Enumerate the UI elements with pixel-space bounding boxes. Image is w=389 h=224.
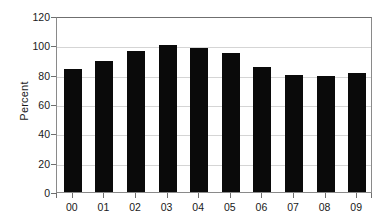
x-axis-tick-label: 01 — [90, 201, 116, 213]
x-axis-tick-label: 03 — [154, 201, 180, 213]
x-axis-tick-mark — [103, 193, 104, 198]
y-axis-tick-label: 100 — [26, 41, 50, 51]
y-axis-tick-label: 120 — [26, 12, 50, 22]
y-axis-tick-label: 40 — [26, 129, 50, 139]
y-axis-tick-label: 60 — [26, 100, 50, 110]
x-axis-tick-label: 00 — [59, 201, 85, 213]
bar — [64, 69, 82, 192]
bar — [127, 51, 145, 192]
x-axis-tick-mark — [261, 193, 262, 198]
x-axis-tick-mark — [356, 193, 357, 198]
x-axis-tick-label: 05 — [217, 201, 243, 213]
bar-series — [57, 18, 371, 192]
x-axis-tick-label: 07 — [280, 201, 306, 213]
x-axis-tick-label: 04 — [185, 201, 211, 213]
x-axis-tick-mark — [230, 193, 231, 198]
x-axis-boundary-tick-mark — [56, 193, 57, 198]
chart-page: Percent 020406080100120 0001020304050607… — [0, 0, 389, 224]
x-axis-tick-mark — [72, 193, 73, 198]
bar — [348, 73, 366, 192]
x-axis: 00010203040506070809 — [56, 193, 372, 224]
x-axis-tick-label: 06 — [248, 201, 274, 213]
x-axis-tick-label: 09 — [343, 201, 369, 213]
bar — [95, 61, 113, 192]
x-axis-tick-mark — [325, 193, 326, 198]
bar — [253, 67, 271, 192]
bar — [285, 75, 303, 192]
x-axis-tick-mark — [167, 193, 168, 198]
y-axis-tick-label: 0 — [26, 188, 50, 198]
x-axis-tick-label: 08 — [312, 201, 338, 213]
y-axis-tick-labels: 020406080100120 — [26, 0, 50, 224]
y-axis-tick-label: 20 — [26, 159, 50, 169]
x-axis-tick-mark — [198, 193, 199, 198]
bar — [317, 76, 335, 192]
bar — [190, 48, 208, 192]
y-axis-tick-label: 80 — [26, 71, 50, 81]
x-axis-tick-mark — [293, 193, 294, 198]
bar — [159, 45, 177, 192]
x-axis-tick-label: 02 — [122, 201, 148, 213]
bar — [222, 53, 240, 192]
x-axis-boundary-tick-mark — [371, 193, 372, 198]
x-axis-tick-mark — [135, 193, 136, 198]
plot-area — [56, 17, 372, 193]
